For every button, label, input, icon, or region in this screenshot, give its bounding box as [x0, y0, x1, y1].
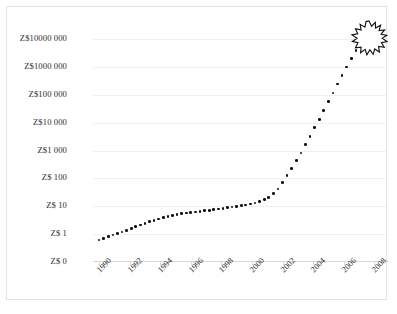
x-axis-tick — [374, 261, 375, 266]
data-point — [263, 198, 266, 201]
data-point — [148, 220, 151, 223]
grid-line — [93, 67, 388, 68]
data-point — [134, 225, 137, 228]
x-axis-tick — [313, 261, 314, 266]
y-axis-tick-label: Z$10000 000 — [0, 34, 67, 43]
data-point — [212, 208, 215, 211]
data-point — [102, 237, 105, 240]
x-axis-tick — [221, 261, 222, 266]
grid-line — [93, 39, 388, 40]
data-point — [286, 174, 289, 177]
data-point — [144, 222, 147, 225]
data-point — [157, 218, 160, 221]
data-point — [185, 212, 188, 215]
data-point — [226, 206, 229, 209]
data-point — [203, 209, 206, 212]
data-point — [162, 216, 165, 219]
x-axis-tick — [99, 261, 100, 266]
data-point — [304, 143, 307, 146]
data-point — [240, 204, 243, 207]
data-point — [217, 208, 220, 211]
data-point — [222, 207, 225, 210]
y-axis-tick-label: Z$10 000 — [0, 118, 67, 127]
x-axis-tick — [344, 261, 345, 266]
data-point — [295, 159, 298, 162]
data-point — [281, 181, 284, 184]
data-point — [313, 126, 316, 129]
data-point — [254, 202, 257, 205]
data-point — [277, 188, 280, 191]
data-point — [167, 215, 170, 218]
data-point — [208, 209, 211, 212]
data-point — [341, 74, 344, 77]
data-point — [272, 192, 275, 195]
data-point — [267, 196, 270, 199]
y-axis-tick-label: Z$ 10 — [0, 201, 67, 210]
plot-area — [93, 27, 388, 261]
grid-line — [93, 123, 388, 124]
data-point — [336, 83, 339, 86]
data-point — [300, 152, 303, 155]
grid-line — [93, 95, 388, 96]
data-point — [180, 212, 183, 215]
data-point — [130, 227, 133, 230]
data-point — [318, 118, 321, 121]
data-point — [107, 235, 110, 238]
grid-line — [93, 178, 388, 179]
data-point — [309, 135, 312, 138]
figure-frame: Z$10000 000Z$1000 000Z$100 000Z$10 000Z$… — [6, 6, 387, 300]
data-point — [327, 100, 330, 103]
data-point — [139, 224, 142, 227]
grid-line — [93, 151, 388, 152]
data-point — [322, 109, 325, 112]
data-point — [153, 219, 156, 222]
data-point — [249, 203, 252, 206]
x-axis-tick — [252, 261, 253, 266]
data-point — [125, 229, 128, 232]
grid-line — [93, 234, 388, 235]
data-point — [116, 232, 119, 235]
y-axis-tick-label: Z$100 000 — [0, 90, 67, 99]
y-axis-tick-label: Z$1 000 — [0, 146, 67, 155]
data-point — [121, 231, 124, 234]
data-point — [171, 214, 174, 217]
data-point — [258, 200, 261, 203]
data-point — [98, 239, 101, 242]
data-point — [189, 211, 192, 214]
data-point — [290, 167, 293, 170]
x-axis-tick — [160, 261, 161, 266]
y-axis-tick-label: Z$1000 000 — [0, 62, 67, 71]
x-axis-tick — [130, 261, 131, 266]
data-point — [176, 213, 179, 216]
data-point — [199, 210, 202, 213]
y-axis-tick-label: Z$ 1 — [0, 229, 67, 238]
data-point — [235, 205, 238, 208]
y-axis-tick-label: Z$ 0 — [0, 257, 67, 266]
x-axis-tick — [283, 261, 284, 266]
data-point — [112, 234, 115, 237]
data-point — [194, 211, 197, 214]
y-axis-tick-label: Z$ 100 — [0, 173, 67, 182]
data-point — [350, 57, 353, 60]
x-axis-tick — [191, 261, 192, 266]
figure-container: Z$10000 000Z$1000 000Z$100 000Z$10 000Z$… — [0, 0, 397, 314]
explosion-starburst-icon — [350, 20, 388, 56]
